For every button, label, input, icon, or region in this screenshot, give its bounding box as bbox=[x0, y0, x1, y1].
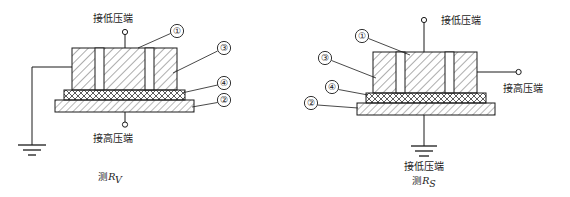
left-callout-4-label: ④ bbox=[220, 78, 228, 88]
right-top-terminal-node bbox=[421, 17, 426, 22]
left-callout-1-label: ① bbox=[173, 26, 181, 36]
left-electrode-gap-left bbox=[95, 48, 104, 90]
left-bottom-terminal-label: 接高压端 bbox=[93, 132, 133, 144]
left-electrode-body bbox=[72, 48, 177, 90]
right-top-terminal-label: 接低压端 bbox=[441, 14, 481, 26]
right-electrode-gap-left bbox=[396, 52, 405, 93]
specimen-resistance-measurement-figure: 接低压端 接高压端 bbox=[0, 0, 570, 197]
left-bottom-terminal-node bbox=[122, 122, 127, 127]
left-caption-symbol: R bbox=[107, 171, 115, 182]
right-callout-2-label: ② bbox=[307, 98, 315, 108]
left-upper-electrode-assembly bbox=[72, 48, 177, 90]
left-callout-2-label: ② bbox=[220, 95, 228, 105]
left-callout-3-label: ③ bbox=[220, 43, 228, 53]
right-caption-symbol: R bbox=[421, 175, 429, 186]
right-upper-electrode-assembly bbox=[373, 52, 477, 93]
right-callout-3-label: ③ bbox=[321, 53, 329, 63]
right-callout-1-label: ① bbox=[358, 31, 366, 41]
left-caption-subscript: V bbox=[115, 174, 123, 185]
right-callout-4-label: ④ bbox=[328, 82, 336, 92]
left-specimen-layer bbox=[64, 90, 185, 100]
right-bottom-electrode-plate bbox=[357, 103, 495, 115]
right-side-terminal-node bbox=[516, 69, 521, 74]
right-caption-prefix: 测 bbox=[412, 175, 422, 186]
right-specimen-layer bbox=[366, 93, 486, 103]
left-electrode-gap-right bbox=[145, 48, 154, 90]
left-top-terminal-node bbox=[122, 29, 127, 34]
left-bottom-electrode-plate bbox=[55, 100, 194, 112]
right-side-terminal-label: 接高压端 bbox=[503, 82, 543, 94]
left-top-terminal-label: 接低压端 bbox=[93, 12, 133, 24]
right-electrode-gap-right bbox=[445, 52, 454, 93]
right-caption-subscript: S bbox=[429, 178, 436, 189]
left-caption-prefix: 测 bbox=[98, 171, 108, 182]
right-electrode-body bbox=[373, 52, 477, 93]
right-ground-terminal-label: 接低压端 bbox=[404, 160, 444, 172]
figure-canvas: 接低压端 接高压端 bbox=[0, 0, 570, 197]
